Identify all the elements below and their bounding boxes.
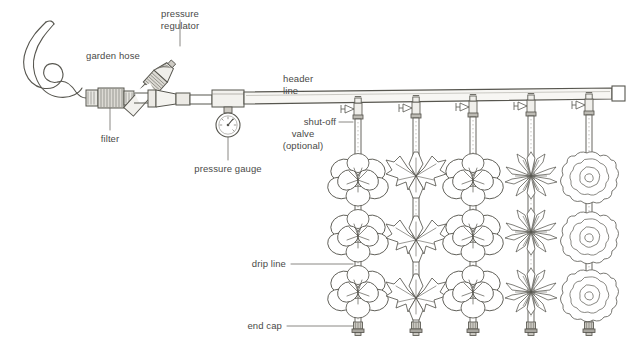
header-line-pipe [244,86,625,104]
bloom [561,270,619,322]
plant-column-5 [561,152,619,322]
label-drip-line: drip line [228,258,286,270]
label-shutoff-line2: valve [275,128,331,140]
garden-hose [24,21,86,98]
bloom [440,154,507,207]
label-header-line-line2: line [283,85,298,97]
mainline-fittings [134,90,244,113]
plant-column-3 [440,154,507,319]
plant-column-4 [505,152,557,315]
pressure-regulator-body [122,56,180,118]
bloom [386,216,446,262]
end-cap-group [352,322,595,336]
bloom [505,268,557,315]
label-header-line-line1: header [283,73,313,85]
bloom [325,266,392,319]
bloom [440,266,507,319]
end-cap [525,322,537,336]
end-cap [467,322,479,336]
label-filter: filter [82,133,138,145]
plant-column-2 [386,152,446,320]
end-cap [410,322,422,336]
bloom [561,152,619,204]
label-pressure-regulator-line1: pressure [140,8,220,20]
label-pressure-regulator-line2: regulator [140,20,220,32]
label-shutoff-line3: (optional) [271,140,335,152]
bloom [325,210,392,263]
label-pressure-gauge: pressure gauge [178,163,278,175]
end-cap [352,322,364,336]
bloom [440,210,507,263]
label-garden-hose: garden hose [86,50,140,62]
drip-irrigation-diagram: garden hose pressure regulator filter pr… [0,0,643,356]
pressure-gauge-body [216,113,240,137]
bloom [386,152,446,198]
bloom [325,154,392,207]
label-end-cap: end cap [224,320,282,332]
label-shutoff-line1: shut-off [275,116,336,128]
plant-column-1 [325,154,392,319]
bloom [505,208,557,255]
bloom [386,274,446,320]
end-cap [583,322,595,336]
bloom [505,152,557,199]
bloom [561,212,619,264]
